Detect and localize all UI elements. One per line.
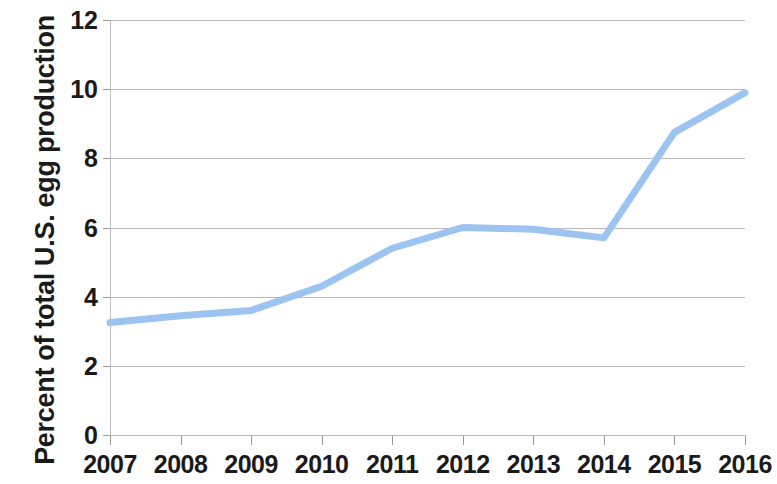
- x-axis-tick: [745, 436, 746, 445]
- x-axis-tick: [181, 436, 182, 445]
- x-axis-tick-label: 2016: [700, 450, 777, 479]
- series-line-percent-of-total-us-egg-production: [110, 93, 745, 323]
- x-axis-tick: [322, 436, 323, 445]
- y-axis-tick: [103, 20, 110, 21]
- y-axis-tick: [103, 435, 110, 436]
- x-axis-tick: [604, 436, 605, 445]
- y-axis-tick: [103, 158, 110, 159]
- x-axis-tick: [392, 436, 393, 445]
- y-axis-tick: [103, 297, 110, 298]
- x-axis-tick: [251, 436, 252, 445]
- y-axis-tick: [103, 366, 110, 367]
- x-axis-tick: [674, 436, 675, 445]
- y-axis-tick: [103, 228, 110, 229]
- x-axis-tick: [110, 436, 111, 445]
- x-axis-tick: [463, 436, 464, 445]
- y-axis-tick: [103, 89, 110, 90]
- x-axis-tick: [533, 436, 534, 445]
